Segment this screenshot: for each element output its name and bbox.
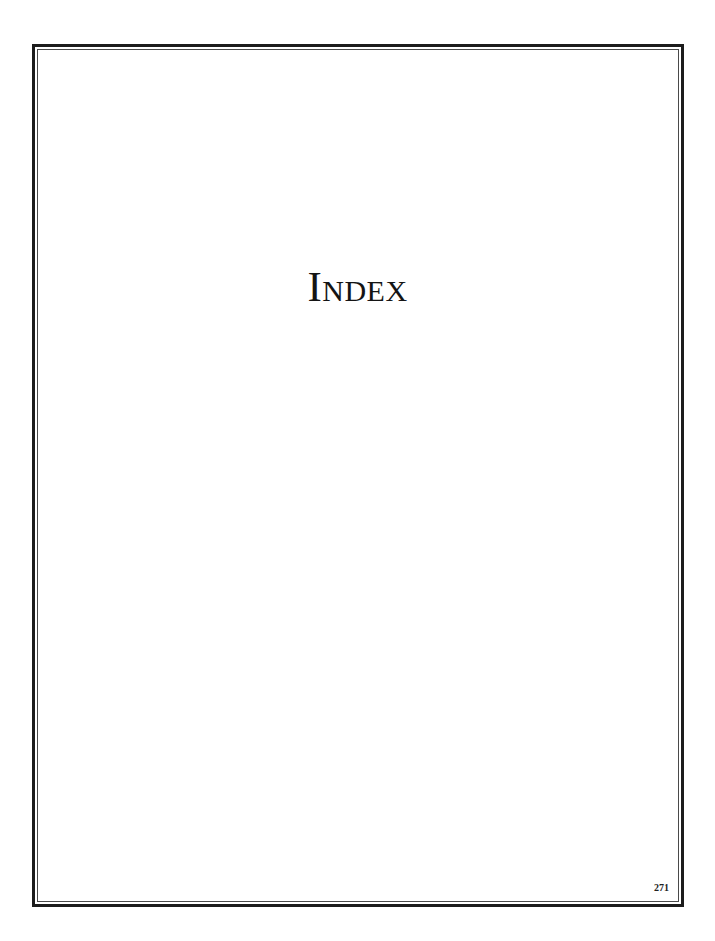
page-title: Index	[0, 262, 715, 312]
page-border-inner	[37, 49, 679, 902]
page-number: 271	[654, 882, 669, 893]
page-border-outer	[32, 44, 684, 907]
